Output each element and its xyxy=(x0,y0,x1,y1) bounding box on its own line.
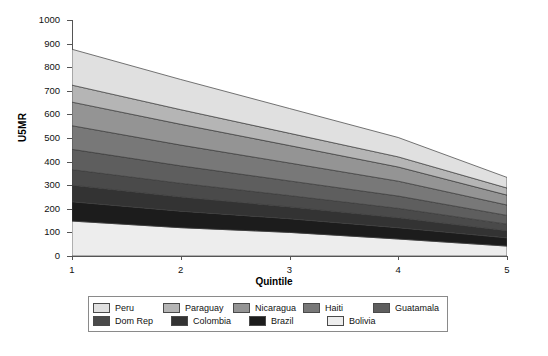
legend-label: Haiti xyxy=(325,303,343,313)
x-tick-label: 2 xyxy=(171,264,191,275)
legend-item-nicaragua[interactable]: Nicaragua xyxy=(233,303,297,313)
legend-item-bolivia[interactable]: Bolivia xyxy=(327,316,399,326)
legend-swatch-icon xyxy=(93,303,110,313)
x-axis-ticks: 12345 xyxy=(0,256,548,278)
legend-row: Dom RepColombiaBrazilBolivia xyxy=(93,314,445,327)
x-tick-mark xyxy=(290,256,291,260)
x-tick-label: 3 xyxy=(280,264,300,275)
x-tick-mark xyxy=(181,256,182,260)
legend-label: Brazil xyxy=(271,316,294,326)
y-tick-label: 600 xyxy=(0,108,60,119)
legend-label: Bolivia xyxy=(349,316,376,326)
legend-swatch-icon xyxy=(171,316,188,326)
y-tick-label: 800 xyxy=(0,61,60,72)
legend-item-peru[interactable]: Peru xyxy=(93,303,157,313)
legend-swatch-icon xyxy=(373,303,390,313)
plot-area xyxy=(72,20,507,256)
y-axis-ticks: 01002003004005006007008009001000 xyxy=(0,0,72,276)
chart-figure: 01002003004005006007008009001000 12345 U… xyxy=(0,0,548,356)
y-tick-label: 500 xyxy=(0,132,60,143)
legend-item-brazil[interactable]: Brazil xyxy=(249,316,321,326)
y-tick-label: 100 xyxy=(0,226,60,237)
y-tick-label: 400 xyxy=(0,156,60,167)
legend-item-guatamala[interactable]: Guatamala xyxy=(373,303,439,313)
legend-swatch-icon xyxy=(303,303,320,313)
legend-label: Nicaragua xyxy=(255,303,296,313)
legend-swatch-icon xyxy=(249,316,266,326)
y-tick-label: 200 xyxy=(0,203,60,214)
x-tick-mark xyxy=(398,256,399,260)
legend-swatch-icon xyxy=(93,316,110,326)
legend-swatch-icon xyxy=(233,303,250,313)
legend-item-haiti[interactable]: Haiti xyxy=(303,303,367,313)
x-axis-title: Quintile xyxy=(0,276,548,287)
y-tick-label: 900 xyxy=(0,38,60,49)
legend-label: Paraguay xyxy=(185,303,224,313)
y-tick-label: 300 xyxy=(0,179,60,190)
legend-row: PeruParaguayNicaraguaHaitiGuatamala xyxy=(93,301,445,314)
x-tick-mark xyxy=(507,256,508,260)
legend-swatch-icon xyxy=(327,316,344,326)
legend-item-colombia[interactable]: Colombia xyxy=(171,316,243,326)
legend-swatch-icon xyxy=(163,303,180,313)
legend-label: Colombia xyxy=(193,316,231,326)
y-tick-label: 1000 xyxy=(0,14,60,25)
y-tick-label: 700 xyxy=(0,85,60,96)
legend-label: Dom Rep xyxy=(115,316,153,326)
stacked-area-plot xyxy=(72,20,507,256)
chart-legend: PeruParaguayNicaraguaHaitiGuatamalaDom R… xyxy=(88,296,448,332)
legend-item-dom-rep[interactable]: Dom Rep xyxy=(93,316,165,326)
legend-label: Peru xyxy=(115,303,134,313)
legend-item-paraguay[interactable]: Paraguay xyxy=(163,303,227,313)
x-tick-label: 4 xyxy=(388,264,408,275)
x-tick-label: 1 xyxy=(62,264,82,275)
legend-label: Guatamala xyxy=(395,303,439,313)
y-axis-title: U5MR xyxy=(17,88,28,168)
x-tick-label: 5 xyxy=(497,264,517,275)
x-tick-mark xyxy=(72,256,73,260)
